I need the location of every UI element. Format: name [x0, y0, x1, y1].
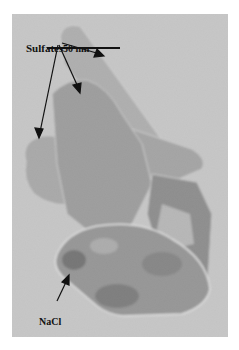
grain-overlay [12, 14, 228, 337]
nacl-label: NaCl [39, 317, 61, 327]
scale-bar [47, 47, 120, 49]
tem-particle-drawing [12, 14, 228, 337]
scale-bar-label: 50 nm [63, 44, 89, 54]
micrograph-image: Sulfates 50 nm NaCl [12, 14, 228, 337]
